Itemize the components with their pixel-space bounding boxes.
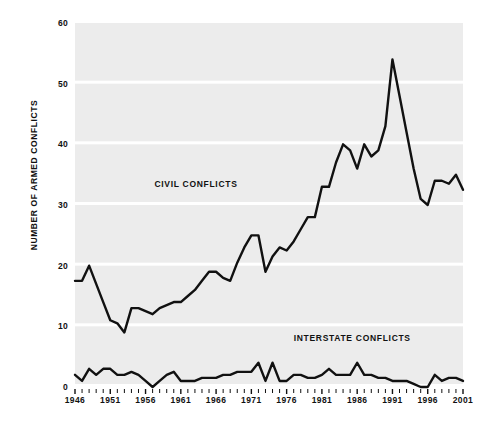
x-axis-tick-1981: 1981 xyxy=(302,395,342,405)
armed-conflicts-chart: NUMBER OF ARMED CONFLICTS 0102030405060 … xyxy=(0,0,496,424)
y-axis-tick-20: 20 xyxy=(58,262,68,270)
plot-band xyxy=(75,144,463,202)
x-axis-tick-1956: 1956 xyxy=(126,395,166,405)
x-axis-tick-1991: 1991 xyxy=(372,395,412,405)
x-axis-tick-2001: 2001 xyxy=(443,395,483,405)
y-axis-tick-10: 10 xyxy=(58,322,68,330)
x-axis-tick-1986: 1986 xyxy=(337,395,377,405)
x-axis-tick-1971: 1971 xyxy=(231,395,271,405)
plot-band xyxy=(75,84,463,142)
y-axis-tick-60: 60 xyxy=(58,19,68,27)
series-label-civil-conflicts: CIVIL CONFLICTS xyxy=(154,179,237,189)
plot-canvas xyxy=(0,0,496,424)
y-axis-tick-30: 30 xyxy=(58,201,68,209)
x-axis-tick-1946: 1946 xyxy=(55,395,95,405)
y-axis-tick-labels: 0102030405060 xyxy=(46,0,68,424)
plot-band xyxy=(75,266,463,324)
plot-band xyxy=(75,205,463,263)
plot-band xyxy=(75,23,463,81)
x-axis-tick-1976: 1976 xyxy=(267,395,307,405)
y-axis-title: NUMBER OF ARMED CONFLICTS xyxy=(29,75,39,275)
y-axis-tick-40: 40 xyxy=(58,140,68,148)
x-axis-tick-1966: 1966 xyxy=(196,395,236,405)
x-axis-tick-1961: 1961 xyxy=(161,395,201,405)
series-label-interstate-conflicts: INTERSTATE CONFLICTS xyxy=(294,333,411,343)
x-axis-tick-1951: 1951 xyxy=(90,395,130,405)
x-axis-tick-1996: 1996 xyxy=(408,395,448,405)
y-axis-tick-0: 0 xyxy=(63,383,68,391)
y-axis-tick-50: 50 xyxy=(58,80,68,88)
